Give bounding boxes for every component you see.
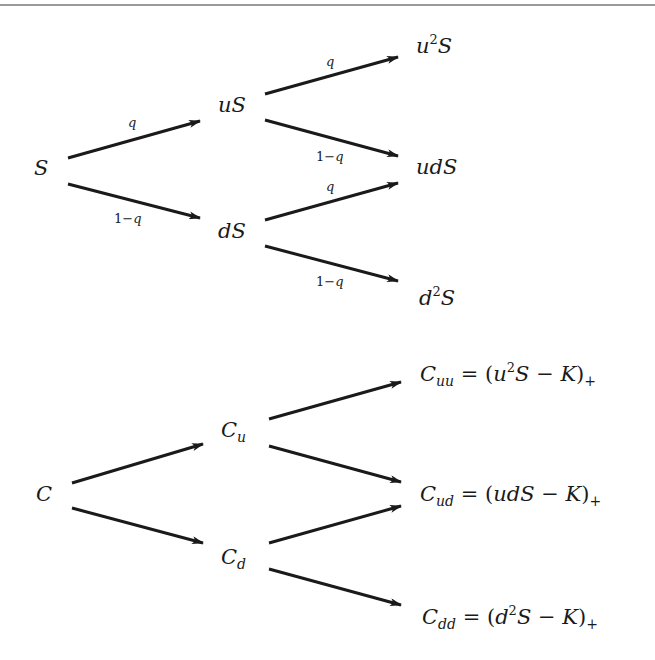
node-c: C xyxy=(36,484,52,505)
node-us: uS xyxy=(218,95,246,116)
edge-label-q: q xyxy=(326,180,334,193)
arrow-c-to-cd xyxy=(72,508,203,543)
arrow-cd-to-cdd xyxy=(269,569,401,605)
node-ds: dS xyxy=(218,221,246,242)
edge-label-1-minus-q: 1−q xyxy=(316,150,344,163)
tree-arrows xyxy=(0,0,655,660)
edge-label-1-minus-q: 1−q xyxy=(114,212,142,225)
arrow-cu-to-cud xyxy=(269,446,401,482)
node-uds: udS xyxy=(416,157,457,178)
arrow-cd-to-cud xyxy=(269,506,401,543)
node-cd: Cd xyxy=(221,547,246,568)
edge-label-q: q xyxy=(128,116,136,129)
node-cuu: Cuu = (u2S − K)+ xyxy=(420,364,596,385)
node-cud: Cud = (udS − K)+ xyxy=(420,484,601,505)
node-s: S xyxy=(34,158,48,179)
edge-label-1-minus-q: 1−q xyxy=(316,275,344,288)
arrow-cu-to-cuu xyxy=(269,382,401,419)
edge-label-q: q xyxy=(326,55,334,68)
node-dds: d2S xyxy=(419,288,455,309)
arrow-c-to-cu xyxy=(72,444,203,483)
node-cdd: Cdd = (d2S − K)+ xyxy=(422,607,598,628)
node-uus: u2S xyxy=(416,36,452,57)
node-cu: Cu xyxy=(221,420,246,441)
